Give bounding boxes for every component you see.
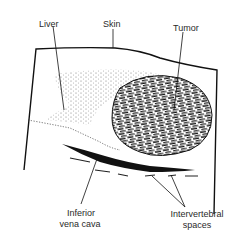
- tumor-mass: [112, 76, 212, 156]
- ivc-leader: [81, 156, 98, 204]
- label-ivc-2: vena cava: [52, 219, 108, 229]
- label-intervertebral-1: Intervertebral: [166, 209, 228, 219]
- liver-leader: [53, 26, 64, 110]
- label-ivc-1: Inferior: [58, 208, 104, 218]
- diagram-drawing: [0, 0, 237, 244]
- iv-leader-1: [152, 176, 185, 207]
- label-intervertebral-2: spaces: [166, 220, 228, 230]
- label-tumor: Tumor: [173, 23, 199, 33]
- ultrasound-diagram: Liver Skin Tumor Inferior vena cava Inte…: [0, 0, 237, 244]
- iv-leader-2: [171, 175, 185, 207]
- label-liver: Liver: [39, 19, 59, 29]
- label-skin: Skin: [103, 19, 121, 29]
